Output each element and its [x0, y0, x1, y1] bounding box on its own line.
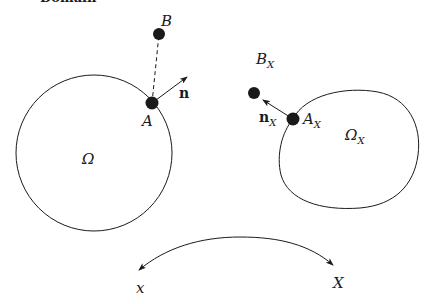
left-domain: B A n Ω [16, 12, 189, 231]
omega-label: Ω [81, 150, 94, 168]
dashed-segment-AB [152, 34, 159, 103]
point-A-label: A [140, 112, 153, 130]
omega-x-boundary [279, 90, 418, 208]
mapping-arrow-right [240, 237, 333, 265]
normal-x-label: nX [259, 109, 277, 128]
mapping-arrow-left [139, 237, 240, 270]
point-B-label: B [160, 12, 172, 30]
diagram-canvas: Domain B A n Ω BX AX nX ΩX x [0, 0, 430, 304]
omega-x-label: ΩX [344, 126, 365, 146]
right-domain: BX AX nX ΩX [248, 50, 419, 208]
point-A-dot [146, 97, 159, 110]
point-AX-dot [287, 113, 300, 126]
normal-label: n [179, 85, 189, 101]
point-BX-label: BX [255, 50, 275, 70]
point-AX-label: AX [301, 110, 322, 130]
point-BX-dot [248, 87, 260, 99]
mapping-right-label: X [332, 274, 345, 292]
header-partial-text: Domain [40, 0, 97, 5]
mapping-arrow-group: x X [136, 237, 345, 297]
mapping-left-label: x [136, 279, 145, 297]
